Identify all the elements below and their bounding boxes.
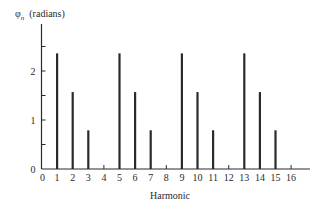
x-tick-label: 15	[271, 172, 281, 183]
x-tick-label: 10	[193, 172, 203, 183]
x-tick-label: 2	[70, 172, 75, 183]
x-tick-label: 8	[164, 172, 169, 183]
y-tick-label: 0	[31, 164, 36, 175]
x-tick-label: 1	[55, 172, 60, 183]
plot-area: 012012345678910111213141516	[0, 0, 322, 207]
x-tick-label: 14	[255, 172, 265, 183]
x-tick-label: 9	[179, 172, 184, 183]
y-axis-subscript: n	[21, 14, 25, 22]
x-tick-label: 3	[86, 172, 91, 183]
x-tick-label: 12	[224, 172, 234, 183]
x-tick-label: 0	[40, 172, 45, 183]
y-axis-label: φn (radians)	[15, 8, 65, 19]
x-tick-label: 16	[286, 172, 296, 183]
x-tick-label: 5	[117, 172, 122, 183]
x-tick-label: 6	[133, 172, 138, 183]
x-tick-label: 4	[101, 172, 106, 183]
phase-spectrum-chart: φn (radians) 012012345678910111213141516…	[0, 0, 322, 207]
y-axis-symbol: φ	[15, 8, 21, 19]
y-tick-label: 1	[31, 115, 36, 126]
y-axis-unit: (radians)	[29, 8, 65, 19]
x-tick-label: 7	[148, 172, 153, 183]
x-tick-label: 13	[239, 172, 249, 183]
y-tick-label: 2	[31, 66, 36, 77]
x-axis-label: Harmonic	[150, 190, 190, 201]
x-tick-label: 11	[208, 172, 218, 183]
